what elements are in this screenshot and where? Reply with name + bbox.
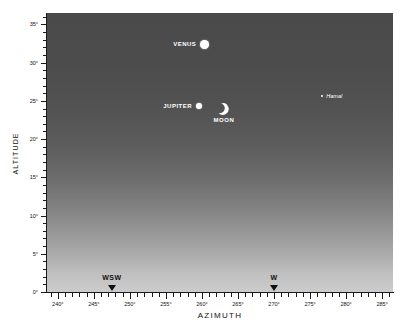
direction-marker-label-w: W [271,274,278,281]
y-tick-minor [43,193,47,194]
x-tick-minor [195,293,196,297]
x-tick-minor [288,293,289,297]
x-tick-minor [87,293,88,297]
y-tick-minor [43,17,47,18]
x-tick-minor [296,293,297,297]
x-axis-title: AZIMUTH [47,311,393,320]
y-tick-major [41,292,47,293]
y-tick-minor [43,116,47,117]
x-tick-minor [152,293,153,297]
direction-marker-triangle-icon [108,285,116,291]
x-tick-minor [137,293,138,297]
y-tick-minor [43,200,47,201]
y-tick-label: 25° [18,98,38,104]
y-tick-minor [43,86,47,87]
x-tick-major [382,293,383,299]
x-tick-major [94,293,95,299]
plot-area [47,13,393,292]
x-tick-minor [188,293,189,297]
x-tick-major [310,293,311,299]
y-tick-minor [43,277,47,278]
y-tick-major [41,216,47,217]
x-tick-label: 245° [81,301,107,307]
y-tick-minor [43,32,47,33]
x-tick-label: 280° [333,301,359,307]
direction-marker-triangle-icon [270,285,278,291]
x-tick-minor [173,293,174,297]
y-tick-minor [43,261,47,262]
x-tick-label: 260° [189,301,215,307]
x-tick-minor [72,293,73,297]
x-axis-line [46,292,394,293]
venus-label: VENUS [173,41,196,47]
y-tick-minor [43,238,47,239]
x-tick-minor [317,293,318,297]
y-tick-minor [43,124,47,125]
x-tick-minor [375,293,376,297]
x-tick-minor [144,293,145,297]
y-tick-minor [43,40,47,41]
x-tick-minor [267,293,268,297]
y-tick-minor [43,93,47,94]
y-tick-label: 15° [18,174,38,180]
y-tick-minor [43,170,47,171]
x-tick-label: 285° [369,301,395,307]
y-tick-minor [43,223,47,224]
y-tick-label: 35° [18,21,38,27]
jupiter-label: JUPITER [163,103,192,109]
x-tick-label: 250° [117,301,143,307]
x-tick-minor [216,293,217,297]
y-tick-minor [43,70,47,71]
x-tick-minor [389,293,390,297]
x-tick-minor [123,293,124,297]
x-tick-minor [108,293,109,297]
x-tick-major [130,293,131,299]
x-tick-minor [231,293,232,297]
x-tick-label: 265° [225,301,251,307]
x-tick-minor [209,293,210,297]
y-tick-minor [43,231,47,232]
y-tick-major [41,101,47,102]
x-tick-minor [224,293,225,297]
y-tick-minor [43,154,47,155]
x-tick-minor [353,293,354,297]
x-tick-minor [115,293,116,297]
x-tick-minor [325,293,326,297]
x-tick-major [58,293,59,299]
x-tick-minor [281,293,282,297]
moon-label: MOON [214,117,235,123]
y-tick-minor [43,185,47,186]
x-tick-minor [180,293,181,297]
x-tick-minor [252,293,253,297]
moon-crescent-icon [217,103,229,115]
x-tick-major [238,293,239,299]
y-tick-major [41,139,47,140]
figure-caption [12,326,402,334]
sky-chart: 0°5°10°15°20°25°30°35° 240°245°250°255°2… [0,0,409,335]
y-tick-major [41,254,47,255]
y-tick-major [41,63,47,64]
x-tick-major [274,293,275,299]
x-tick-major [202,293,203,299]
y-tick-minor [43,109,47,110]
x-tick-label: 240° [45,301,71,307]
y-tick-major [41,24,47,25]
y-tick-minor [43,147,47,148]
x-tick-minor [65,293,66,297]
x-tick-label: 255° [153,301,179,307]
y-tick-minor [43,55,47,56]
y-tick-minor [43,131,47,132]
x-tick-label: 270° [261,301,287,307]
y-axis-title: ALTITUDE [12,119,19,189]
y-tick-minor [43,208,47,209]
y-tick-label: 20° [18,136,38,142]
y-tick-minor [43,246,47,247]
x-tick-minor [245,293,246,297]
x-tick-minor [101,293,102,297]
y-tick-minor [43,269,47,270]
y-tick-label: 10° [18,213,38,219]
x-tick-major [166,293,167,299]
y-tick-major [41,177,47,178]
x-tick-minor [368,293,369,297]
y-tick-minor [43,78,47,79]
